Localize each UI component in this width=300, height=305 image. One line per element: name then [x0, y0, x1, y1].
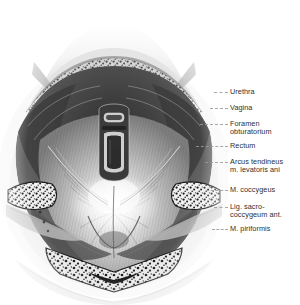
leader-line-coccygeus	[206, 190, 228, 191]
label-urethra: Urethra	[230, 88, 255, 96]
label-foramen-line2: obturatorium	[230, 128, 272, 136]
label-lig-sacrococcygeum: Lig. sacro- coccygeum ant.	[230, 203, 282, 219]
label-m-coccygeus: M. coccygeus	[230, 186, 275, 194]
leader-line-vagina	[210, 108, 228, 109]
label-column: Urethra Vagina Foramen obturatorium Rect…	[230, 0, 300, 305]
label-m-piriformis: M. piriformis	[230, 225, 270, 233]
label-vagina-line1: Vagina	[230, 103, 252, 112]
leader-line-arcus	[205, 162, 228, 163]
leader-line-rectum	[196, 146, 228, 147]
leader-line-foramen	[200, 124, 228, 125]
leader-line-piriformis	[212, 229, 228, 230]
label-urethra-line1: Urethra	[230, 87, 255, 96]
leader-line-ligament	[214, 207, 228, 208]
label-arcus-tendineus: Arcus tendineus m. levatoris ani	[230, 158, 283, 174]
label-piriformis-line1: M. piriformis	[230, 224, 270, 233]
label-foramen-obturatorium: Foramen obturatorium	[230, 120, 272, 136]
label-vagina: Vagina	[230, 104, 252, 112]
anatomy-plate: Urethra Vagina Foramen obturatorium Rect…	[0, 0, 300, 305]
label-arcus-line2: m. levatoris ani	[230, 166, 283, 174]
label-coccygeus-line1: M. coccygeus	[230, 185, 275, 194]
leader-line-urethra	[214, 92, 228, 93]
label-rectum-line1: Rectum	[230, 141, 255, 150]
label-rectum: Rectum	[230, 142, 255, 150]
anatomical-illustration	[0, 0, 228, 305]
label-ligament-line2: coccygeum ant.	[230, 211, 282, 219]
